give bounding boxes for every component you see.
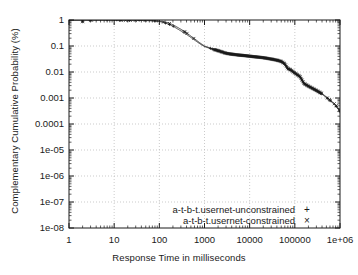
- y-tick-label: 0.1: [20, 40, 64, 51]
- y-tick-label: 0.0001: [20, 118, 64, 129]
- x-tick-label: 1e+06: [310, 234, 358, 245]
- legend-label: a-t-b-t.usernet-constrained: [183, 215, 295, 226]
- y-tick-label: 1e-06: [20, 170, 64, 181]
- y-tick-label: 1e-07: [20, 196, 64, 207]
- legend-marker-cross: ×: [304, 215, 310, 227]
- y-tick-label: 1e-05: [20, 144, 64, 155]
- y-tick-label: 0.001: [20, 92, 64, 103]
- legend-label: a-t-b-t.usernet-unconstrained: [172, 204, 295, 215]
- y-tick-label: 1e-08: [20, 222, 64, 233]
- y-axis-title: Complementary Cumulative Probability (%): [9, 11, 20, 231]
- chart-figure: 10.10.010.0010.00011e-051e-061e-071e-08 …: [0, 0, 358, 275]
- x-axis-title: Response Time in milliseconds: [0, 252, 358, 263]
- y-axis-title-wrapper: Complementary Cumulative Probability (%): [9, 11, 23, 231]
- y-tick-label: 1: [20, 14, 64, 25]
- y-tick-label: 0.01: [20, 66, 64, 77]
- legend-item: a-t-b-t.usernet-constrained: [110, 215, 295, 227]
